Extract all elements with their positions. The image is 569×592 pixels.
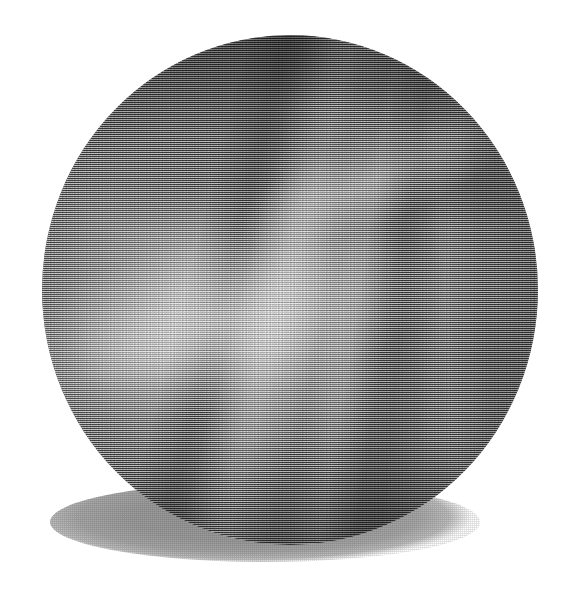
- sphere-rim-softening: [42, 35, 538, 545]
- image-canvas: A grayscale sphere with a fine woven hal…: [0, 0, 569, 592]
- sphere: [42, 35, 538, 545]
